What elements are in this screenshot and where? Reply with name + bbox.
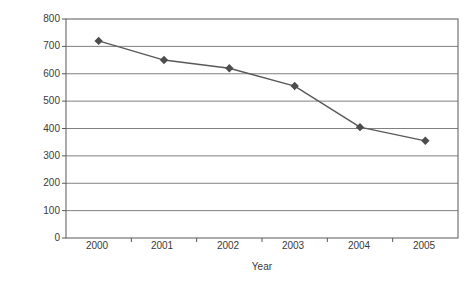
data-point-2005 — [421, 137, 429, 145]
plot-area — [0, 0, 474, 287]
data-point-2001 — [160, 56, 168, 64]
share-price-line-chart: Share price 800 700 600 500 400 300 200 … — [0, 0, 474, 287]
data-point-2004 — [356, 123, 364, 131]
data-point-2000 — [94, 37, 102, 45]
data-point-2003 — [290, 82, 298, 90]
data-line-share-price — [99, 41, 426, 141]
gridlines-group — [66, 46, 458, 210]
data-point-2002 — [225, 64, 233, 72]
tick-marks-group — [62, 19, 393, 242]
